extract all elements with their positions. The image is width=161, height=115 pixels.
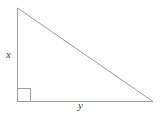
right-triangle-figure: x y: [0, 0, 161, 115]
vertical-leg-label: x: [6, 49, 11, 60]
horizontal-leg-label: y: [78, 100, 83, 111]
right-angle-marker-icon: [18, 89, 31, 102]
hypotenuse-line: [18, 8, 154, 102]
triangle-drawing: [0, 0, 161, 115]
